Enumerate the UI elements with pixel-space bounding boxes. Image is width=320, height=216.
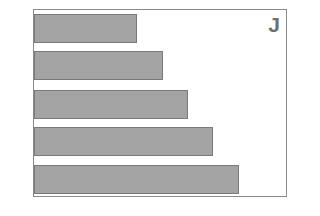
bar-4	[34, 127, 213, 156]
bar-1	[34, 14, 137, 43]
chart-frame: J	[33, 9, 287, 197]
bar-2	[34, 51, 163, 80]
bar-5	[34, 165, 239, 194]
bar-3	[34, 90, 188, 119]
panel-label: J	[268, 14, 280, 35]
